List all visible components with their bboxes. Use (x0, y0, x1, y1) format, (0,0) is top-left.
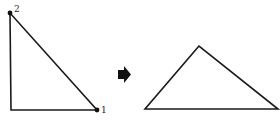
diagram-canvas: 2 1 (0, 0, 280, 130)
vertex-1-label: 1 (101, 105, 107, 115)
vertex-2-label: 2 (14, 4, 20, 14)
scalene-triangle-shape (145, 46, 278, 109)
vertex-2-point (8, 11, 13, 16)
right-triangle (145, 46, 278, 109)
transform-arrow-icon (118, 66, 131, 83)
right-triangle-shape (10, 13, 97, 110)
left-triangle: 2 1 (8, 4, 107, 115)
vertex-1-point (95, 108, 100, 113)
